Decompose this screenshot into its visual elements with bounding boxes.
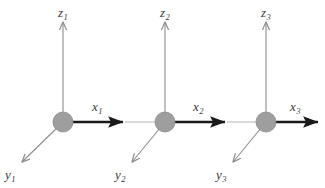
frame-origin-node-3 xyxy=(256,112,276,132)
frame-2-axes xyxy=(132,22,225,162)
y-axis-label-3: y3 xyxy=(216,168,226,181)
frame-origin-node-2 xyxy=(155,112,175,132)
z-axis-label-3: z3 xyxy=(261,6,270,19)
z-axis-label-2: z2 xyxy=(160,6,169,19)
frame-origin-node-1 xyxy=(53,112,73,132)
x-axis-label-2: x2 xyxy=(193,100,203,113)
frame-1-axes xyxy=(22,22,123,162)
frame-3-axes xyxy=(233,22,318,162)
y-axis-label-1: y1 xyxy=(5,168,15,181)
x-axis-label-3: x3 xyxy=(290,100,300,113)
diagram-canvas xyxy=(0,0,325,188)
x-axis-label-1: x1 xyxy=(92,100,102,113)
y-axis-label-2: y2 xyxy=(115,168,125,181)
z-axis-label-1: z1 xyxy=(58,6,67,19)
coordinate-frames-diagram: z1 x1 y1 z2 x2 y2 z3 x3 y3 xyxy=(0,0,325,188)
